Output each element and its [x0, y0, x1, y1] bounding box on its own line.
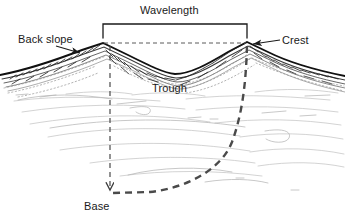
label-trough: Trough	[152, 82, 187, 94]
cross-bedding-faint-lines	[14, 89, 344, 176]
wavelength-bracket	[103, 24, 247, 38]
label-base: Base	[84, 200, 109, 212]
label-wavelength: Wavelength	[140, 4, 199, 16]
dune-diagram: Wavelength Back slope Crest Trough Base	[0, 0, 345, 222]
cross-bedding-curl-strokes	[16, 94, 330, 190]
label-back-slope: Back slope	[18, 33, 73, 45]
back-slope-leader-arrow	[56, 46, 80, 53]
label-crest: Crest	[282, 34, 309, 46]
crest-leader-arrow	[253, 40, 280, 44]
